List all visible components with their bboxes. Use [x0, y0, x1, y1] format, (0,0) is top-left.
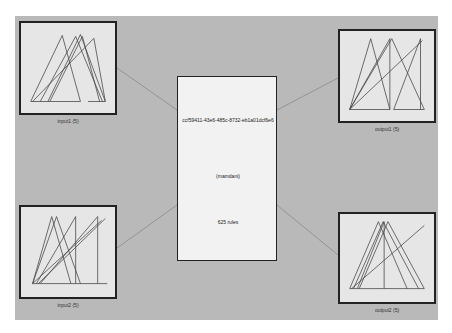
- fis-system-type: (mamdani): [170, 173, 286, 179]
- fis-system-name: ccf59411-43e6-485c-8732-eb1a01dcf6e6: [170, 117, 286, 123]
- output2-label: output2 (5): [337, 307, 437, 313]
- output2-mf-panel[interactable]: [338, 212, 436, 304]
- input2-membership-plot: [21, 207, 115, 297]
- fis-rule-count: 625 rules: [170, 219, 286, 225]
- input2-mf-panel[interactable]: [19, 205, 117, 299]
- output1-mf-panel[interactable]: [338, 29, 436, 123]
- output2-membership-plot: [340, 214, 434, 302]
- input1-mf-panel[interactable]: [19, 21, 117, 115]
- input1-membership-plot: [21, 23, 115, 113]
- input1-label: input1 (5): [18, 118, 118, 124]
- output1-label: output1 (5): [337, 126, 437, 132]
- input2-label: input2 (5): [18, 302, 118, 308]
- fis-system-box[interactable]: ccf59411-43e6-485c-8732-eb1a01dcf6e6 (ma…: [177, 76, 277, 261]
- output1-membership-plot: [340, 31, 434, 121]
